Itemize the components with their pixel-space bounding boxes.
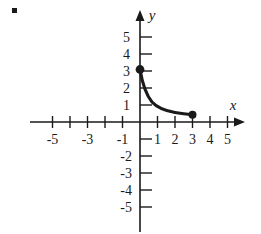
x-tick-label-5: 5 bbox=[224, 132, 231, 147]
y-tick-label--4: -4 bbox=[120, 183, 132, 198]
y-tick-label--5: -5 bbox=[120, 200, 132, 215]
x-tick-label-1: 1 bbox=[154, 132, 161, 147]
x-axis bbox=[30, 118, 245, 127]
x-tick-label-3: 3 bbox=[189, 132, 196, 147]
y-tick-label-2: 2 bbox=[123, 81, 130, 96]
x-tick-label--3: -3 bbox=[82, 132, 94, 147]
x-axis-arrowhead bbox=[234, 118, 245, 127]
graph-figure: -5 -3 -1 1 2 3 4 5 5 4 3 2 1 -2 -3 -4 -5… bbox=[0, 0, 261, 234]
y-tick-label-3: 3 bbox=[123, 64, 130, 79]
x-tick-label-4: 4 bbox=[207, 132, 214, 147]
y-axis bbox=[136, 10, 145, 232]
y-tick-label-1: 1 bbox=[123, 98, 130, 113]
coordinate-plane: -5 -3 -1 1 2 3 4 5 5 4 3 2 1 -2 -3 -4 -5… bbox=[0, 0, 261, 234]
y-tick-label--3: -3 bbox=[120, 166, 132, 181]
y-tick-label--2: -2 bbox=[120, 149, 132, 164]
problem-number-marker bbox=[12, 8, 17, 13]
curve-end-point bbox=[189, 111, 197, 119]
x-axis-label: x bbox=[229, 97, 237, 113]
curve-start-point bbox=[136, 65, 145, 74]
x-tick-label--5: -5 bbox=[47, 132, 59, 147]
y-axis-label: y bbox=[147, 7, 156, 23]
y-tick-label-5: 5 bbox=[123, 30, 130, 45]
x-tick-label--1: -1 bbox=[117, 132, 129, 147]
exponential-decay-curve bbox=[140, 70, 193, 115]
y-axis-arrowhead bbox=[136, 10, 145, 21]
x-tick-label-2: 2 bbox=[172, 132, 179, 147]
y-tick-label-4: 4 bbox=[123, 47, 130, 62]
